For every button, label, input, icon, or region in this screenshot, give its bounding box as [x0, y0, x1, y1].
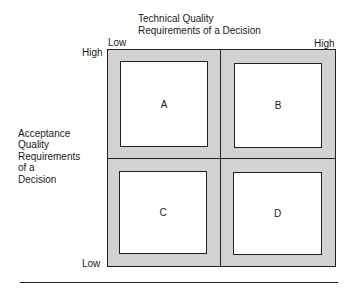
x-axis-high-label: High [314, 38, 335, 49]
y-axis-title: Acceptance Quality Requirements of a Dec… [18, 128, 80, 185]
y-axis-title-line: Requirements [18, 151, 80, 162]
y-axis-title-line: of a [18, 162, 80, 173]
quadrant-label: B [275, 100, 282, 111]
y-axis-high-label: High [82, 47, 103, 58]
x-axis-title: Technical Quality Requirements of a Deci… [138, 13, 261, 36]
y-axis-title-line: Quality [18, 139, 80, 150]
bottom-rule [20, 282, 338, 283]
quadrant-label: C [159, 207, 166, 218]
quadrant-a: A [120, 61, 208, 147]
quadrant-c: C [119, 171, 207, 254]
quadrant-label: D [274, 208, 281, 219]
quadrant-b: B [234, 63, 322, 148]
x-axis-title-line2: Requirements of a Decision [138, 25, 261, 37]
y-axis-title-line: Acceptance [18, 128, 80, 139]
quadrant-label: A [161, 99, 168, 110]
x-axis-title-line1: Technical Quality [138, 13, 261, 25]
y-axis-title-line: Decision [18, 174, 80, 185]
y-axis-low-label: Low [82, 258, 100, 269]
x-axis-low-label: Low [108, 37, 126, 48]
quadrant-d: D [233, 172, 322, 255]
horizontal-divider [107, 158, 336, 159]
